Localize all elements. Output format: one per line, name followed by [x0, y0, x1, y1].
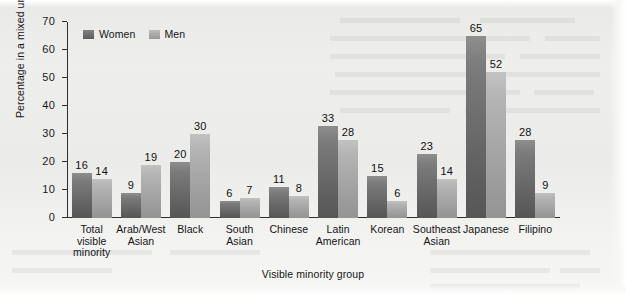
bar-men[interactable]: 8: [289, 196, 309, 218]
plot-area: 010203040506070 161491920306711833281562…: [67, 22, 560, 218]
bar-group: 1614: [67, 22, 116, 218]
bar-slot: 8: [289, 22, 309, 218]
bar-women[interactable]: 6: [220, 201, 240, 218]
bar-women[interactable]: 33: [318, 126, 338, 218]
bar-value-label: 19: [145, 152, 158, 163]
bar-slot: 20: [170, 22, 190, 218]
bar-men[interactable]: 52: [486, 72, 506, 218]
bar-men[interactable]: 7: [240, 198, 260, 218]
bar-slot: 52: [486, 22, 506, 218]
bar-slot: 11: [269, 22, 289, 218]
bar-slot: 6: [220, 22, 240, 218]
bar-slot: 14: [437, 22, 457, 218]
x-tick-label: Korean: [363, 224, 412, 259]
y-tick-label: 10: [42, 183, 55, 195]
x-tick-label: Arab/WestAsian: [116, 224, 165, 259]
bar-value-label: 23: [420, 141, 433, 152]
bar-value-label: 9: [542, 180, 548, 191]
bar-value-label: 7: [246, 185, 252, 196]
chart-figure: Percentage in a mixed union Women Men 01…: [0, 0, 626, 296]
bar-value-label: 28: [342, 127, 355, 138]
y-tick-label: 50: [42, 71, 55, 83]
bar-men[interactable]: 14: [92, 179, 112, 218]
x-tick-label: LatinAmerican: [313, 224, 362, 259]
bar-slot: 16: [72, 22, 92, 218]
bar-slot: 15: [367, 22, 387, 218]
bar-value-label: 14: [440, 166, 453, 177]
bar-slot: 19: [141, 22, 161, 218]
bar-value-label: 65: [470, 23, 483, 34]
bar-men[interactable]: 30: [190, 134, 210, 218]
bar-value-label: 20: [174, 149, 187, 160]
y-tick-label: 40: [42, 99, 55, 111]
bar-group: 6552: [461, 22, 510, 218]
bar-group: 3328: [313, 22, 362, 218]
bar-group: 289: [511, 22, 560, 218]
bar-women[interactable]: 20: [170, 162, 190, 218]
bar-value-label: 6: [226, 188, 232, 199]
bar-slot: 33: [318, 22, 338, 218]
y-tick-label: 20: [42, 155, 55, 167]
x-axis-category-labels: TotalvisibleminorityArab/WestAsianBlackS…: [67, 224, 560, 259]
bar-value-label: 33: [322, 113, 335, 124]
bar-value-label: 9: [128, 180, 134, 191]
bar-slot: 30: [190, 22, 210, 218]
bar-value-label: 16: [75, 160, 88, 171]
bar-group: 156: [363, 22, 412, 218]
bar-slot: 28: [338, 22, 358, 218]
bar-slot: 6: [387, 22, 407, 218]
page-edge-top: [0, 0, 626, 7]
bar-slot: 14: [92, 22, 112, 218]
bar-women[interactable]: 11: [269, 187, 289, 218]
bar-slot: 65: [466, 22, 486, 218]
x-tick-label: SoutheastAsian: [412, 224, 461, 259]
x-tick-label: SouthAsian: [215, 224, 264, 259]
bar-slot: 23: [417, 22, 437, 218]
x-tick-label: Black: [166, 224, 215, 259]
bar-women[interactable]: 23: [417, 154, 437, 218]
bar-value-label: 8: [296, 183, 302, 194]
bar-value-label: 28: [519, 127, 532, 138]
y-tick-label: 70: [42, 15, 55, 27]
y-tick-label: 60: [42, 43, 55, 55]
bar-group: 2030: [166, 22, 215, 218]
page-edge-right: [610, 0, 626, 296]
bar-value-label: 30: [194, 121, 207, 132]
bar-men[interactable]: 28: [338, 140, 358, 218]
bar-men[interactable]: 9: [535, 193, 555, 218]
page-edge-bottom: [0, 284, 626, 296]
x-axis-title: Visible minority group: [0, 268, 626, 280]
bar-value-label: 15: [371, 163, 384, 174]
bar-value-label: 11: [273, 174, 285, 185]
bar-men[interactable]: 14: [437, 179, 457, 218]
x-tick-label: Filipino: [511, 224, 560, 259]
bar-group: 2314: [412, 22, 461, 218]
y-tick-label: 0: [49, 211, 55, 223]
y-axis-title: Percentage in a mixed union: [14, 0, 26, 118]
bar-slot: 9: [535, 22, 555, 218]
bar-men[interactable]: 19: [141, 165, 161, 218]
x-tick-label: Chinese: [264, 224, 313, 259]
bar-women[interactable]: 15: [367, 176, 387, 218]
x-tick-label: Japanese: [461, 224, 510, 259]
x-tick-label: Totalvisibleminority: [67, 224, 116, 259]
bar-group: 919: [116, 22, 165, 218]
bar-value-label: 14: [95, 166, 108, 177]
bar-women[interactable]: 28: [515, 140, 535, 218]
bar-value-label: 6: [394, 188, 400, 199]
y-tick-label: 30: [42, 127, 55, 139]
bar-women[interactable]: 16: [72, 173, 92, 218]
bar-groups: 1614919203067118332815623146552289: [67, 22, 560, 218]
bar-women[interactable]: 65: [466, 36, 486, 218]
bar-value-label: 52: [490, 59, 503, 70]
bar-slot: 7: [240, 22, 260, 218]
bar-group: 118: [264, 22, 313, 218]
bar-men[interactable]: 6: [387, 201, 407, 218]
bar-slot: 9: [121, 22, 141, 218]
bar-group: 67: [215, 22, 264, 218]
bar-women[interactable]: 9: [121, 193, 141, 218]
bar-slot: 28: [515, 22, 535, 218]
